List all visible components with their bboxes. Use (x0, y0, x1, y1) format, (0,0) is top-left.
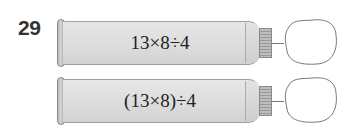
tube-1: 13×8÷4 (57, 19, 357, 67)
expression: 13×8÷4 (67, 21, 253, 65)
answer-bubble[interactable] (283, 75, 339, 125)
tube-cap-icon (259, 28, 272, 58)
tube-cap-icon (259, 86, 272, 116)
question-number: 29 (18, 16, 40, 40)
expression: (13×8)÷4 (67, 79, 253, 123)
tube-2: (13×8)÷4 (57, 77, 357, 125)
answer-bubble[interactable] (283, 17, 339, 67)
